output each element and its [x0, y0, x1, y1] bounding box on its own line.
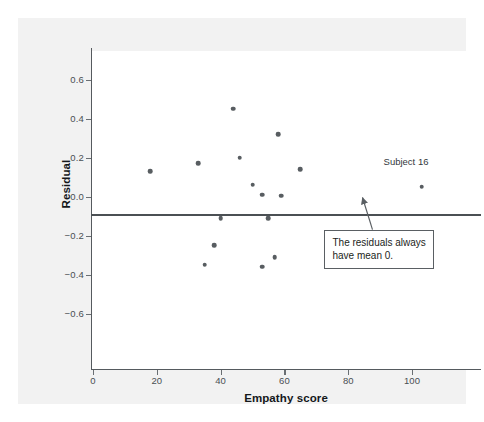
x-tick-mark — [221, 370, 222, 375]
data-point — [266, 216, 271, 221]
y-axis-title: Residual — [60, 124, 72, 244]
subject-16-label: Subject 16 — [384, 156, 429, 167]
data-point — [148, 169, 153, 174]
data-point — [279, 193, 284, 198]
plot-area — [92, 51, 466, 369]
data-point — [260, 192, 265, 197]
data-point — [250, 182, 255, 187]
x-tick-label: 40 — [201, 375, 241, 386]
data-point — [237, 155, 242, 160]
data-point — [276, 132, 281, 137]
y-tick-label: 0.6 — [44, 74, 84, 85]
x-tick-mark — [412, 370, 413, 375]
x-tick-mark — [348, 370, 349, 375]
x-tick-mark — [93, 370, 94, 375]
x-tick-label: 0 — [73, 375, 113, 386]
data-point — [260, 264, 265, 269]
mean-zero-callout: The residuals always have mean 0. — [324, 230, 434, 269]
y-tick-mark — [86, 275, 91, 276]
zero-reference-line — [91, 214, 481, 216]
y-tick-mark — [86, 80, 91, 81]
y-tick-mark — [86, 197, 91, 198]
x-tick-label: 100 — [392, 375, 432, 386]
y-tick-mark — [86, 236, 91, 237]
data-point — [202, 262, 207, 267]
x-axis-title: Empathy score — [91, 392, 481, 404]
data-point — [218, 216, 223, 221]
data-point — [212, 243, 217, 248]
data-point — [231, 106, 236, 111]
x-tick-mark — [157, 370, 158, 375]
x-tick-label: 80 — [328, 375, 368, 386]
data-point — [196, 161, 201, 166]
x-tick-label: 20 — [137, 375, 177, 386]
y-tick-label: 0.4 — [44, 113, 84, 124]
y-tick-mark — [86, 119, 91, 120]
data-point — [298, 167, 303, 172]
data-point — [419, 184, 424, 189]
x-tick-label: 60 — [264, 375, 304, 386]
y-tick-label: −0.6 — [44, 308, 84, 319]
y-tick-label: −0.4 — [44, 269, 84, 280]
y-tick-mark — [86, 314, 91, 315]
data-point — [273, 255, 278, 260]
figure-panel: 0.60.40.20.0−0.2−0.4−0.6 020406080100 Em… — [18, 18, 466, 404]
y-axis-line — [91, 48, 92, 370]
x-axis-line — [91, 369, 481, 370]
x-tick-mark — [284, 370, 285, 375]
y-tick-mark — [86, 158, 91, 159]
